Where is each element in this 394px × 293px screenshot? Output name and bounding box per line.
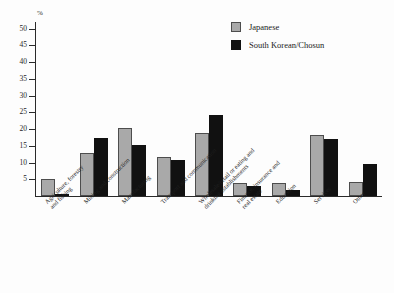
y-tick-mark xyxy=(29,45,36,46)
y-tick-mark xyxy=(29,179,36,180)
y-tick-label: 10 xyxy=(1,159,27,167)
bar-group xyxy=(41,22,69,196)
y-tick-label: 15 xyxy=(1,142,27,150)
y-tick-label: 40 xyxy=(1,58,27,66)
y-tick-mark xyxy=(29,62,36,63)
y-tick-mark xyxy=(29,146,36,147)
legend-item-japanese: Japanese xyxy=(231,18,324,36)
y-tick-label: 30 xyxy=(1,92,27,100)
legend-label-south-korean-chosun: South Korean/Chosun xyxy=(249,40,324,50)
y-axis-unit-label: % xyxy=(37,9,43,17)
y-tick-mark xyxy=(29,112,36,113)
y-tick-mark xyxy=(29,163,36,164)
y-tick-label: 45 xyxy=(1,41,27,49)
y-tick-mark xyxy=(29,129,36,130)
legend-swatch-icon-south-korean-chosun xyxy=(231,40,241,50)
legend-swatch-icon-japanese xyxy=(231,22,241,32)
bar-group xyxy=(157,22,185,196)
y-tick-label: 25 xyxy=(1,108,27,116)
y-tick-mark xyxy=(29,29,36,30)
chart-legend: Japanese South Korean/Chosun xyxy=(231,18,324,54)
bar-chart: % 5101520253035404550 Agriculture, fores… xyxy=(0,0,394,293)
legend-label-japanese: Japanese xyxy=(249,22,279,32)
y-tick-label: 20 xyxy=(1,125,27,133)
y-tick-mark xyxy=(29,79,36,80)
y-tick-label: 35 xyxy=(1,75,27,83)
y-tick-mark xyxy=(29,96,36,97)
y-tick-label: 50 xyxy=(1,25,27,33)
y-tick-label: 5 xyxy=(1,175,27,183)
bar-group xyxy=(349,22,377,196)
legend-item-south-korean-chosun: South Korean/Chosun xyxy=(231,36,324,54)
